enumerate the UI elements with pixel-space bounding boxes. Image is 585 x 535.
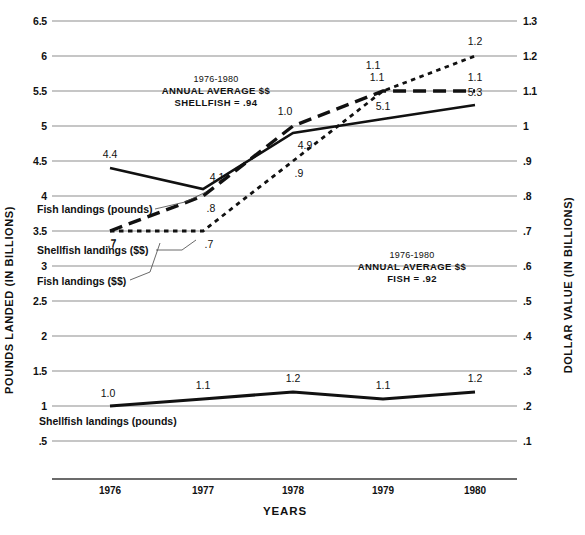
y-tick-right-label: .3 [523, 365, 532, 377]
annotation-fish-average: 1976-1980 ANNUAL AVERAGE $$ FISH = .92 [358, 250, 467, 284]
data-value-label: .7 [205, 238, 214, 250]
fisheries-landings-chart: 6.565.554.543.532.521.51.5 1.31.21.11.9.… [0, 0, 585, 535]
annotation-fish-line1: 1976-1980 [390, 250, 435, 260]
series-label-shellfish-pounds: Shellfish landings (pounds) [39, 415, 177, 427]
y-tick-left-label: 3 [41, 260, 47, 272]
data-value-label: .8 [207, 202, 216, 214]
y-tick-right-label: .4 [523, 330, 532, 342]
data-value-label: 1.0 [278, 105, 293, 117]
x-tick-label: 1980 [464, 485, 486, 496]
data-value-label: .9 [295, 167, 304, 179]
y-tick-left-label: 2 [41, 330, 47, 342]
annotation-shellfish-average: 1976-1980 ANNUAL AVERAGE $$ SHELLFISH = … [162, 74, 271, 108]
y-tick-left-label: 6.5 [33, 15, 47, 27]
y-axis-left-title: POUNDS LANDED (IN BILLIONS) [3, 206, 15, 394]
leader-shellfish-dollars [156, 240, 196, 250]
y-tick-right-label: 1.1 [523, 85, 537, 97]
series-line-shellfish-landings-pounds [110, 392, 475, 406]
x-axis-title: YEARS [263, 505, 307, 517]
leader-fish-pounds [155, 192, 206, 209]
y-axis-left-ticks: 6.565.554.543.532.521.51.5 [33, 15, 47, 447]
y-tick-right-label: .9 [523, 155, 532, 167]
data-value-label: 1.1 [468, 71, 483, 83]
data-value-label: 1.1 [196, 379, 211, 391]
y-tick-right-label: 1.3 [523, 15, 537, 27]
data-value-label: 1.1 [376, 379, 391, 391]
series-line-fish-landings-pounds [110, 105, 475, 189]
data-value-label: 1.1 [366, 59, 381, 71]
series-label-fish-dollars: Fish landings ($$) [37, 275, 126, 287]
x-tick-label: 1977 [192, 485, 214, 496]
data-value-label: 1.2 [468, 372, 483, 384]
series-line-fish-landings [110, 56, 475, 231]
y-tick-right-label: .1 [523, 435, 532, 447]
y-tick-left-label: 3.5 [33, 225, 47, 237]
annotation-fish-line2: ANNUAL AVERAGE $$ [358, 261, 467, 272]
annotation-shellfish-line2: ANNUAL AVERAGE $$ [162, 85, 271, 96]
series-label-fish-pounds: Fish landings (pounds) [37, 203, 153, 215]
x-tick-label: 1978 [282, 485, 304, 496]
y-axis-right-ticks: 1.31.21.11.9.8.7.6.5.4.3.2.1 [523, 15, 537, 447]
y-tick-left-label: 5 [41, 120, 47, 132]
y-axis-right-title: DOLLAR VALUE (IN BILLIONS) [562, 197, 574, 374]
data-value-label: 4.1 [210, 171, 225, 183]
y-tick-right-label: 1 [523, 120, 529, 132]
y-tick-right-label: .6 [523, 260, 532, 272]
data-value-label: 5.1 [376, 100, 391, 112]
data-value-label: 1.1 [370, 71, 385, 83]
y-tick-right-label: .5 [523, 295, 532, 307]
y-tick-left-label: 1.5 [33, 365, 47, 377]
y-tick-left-label: 6 [41, 50, 47, 62]
y-tick-left-label: 1 [41, 400, 47, 412]
y-tick-right-label: 1.2 [523, 50, 537, 62]
x-axis-ticks: 19761977197819791980 [99, 485, 486, 496]
annotation-fish-line3: FISH = .92 [387, 273, 437, 284]
annotation-shellfish-line3: SHELLFISH = .94 [175, 97, 258, 108]
data-value-label: 1.0 [101, 387, 116, 399]
y-tick-right-label: .2 [523, 400, 532, 412]
y-tick-left-label: 2.5 [33, 295, 47, 307]
x-tick-label: 1976 [99, 485, 121, 496]
data-value-label: 4.4 [103, 148, 118, 160]
y-tick-left-label: 5.5 [33, 85, 47, 97]
data-value-label: 1.2 [286, 372, 301, 384]
data-value-label: 1.2 [468, 35, 483, 47]
series-label-shellfish-dollars: Shellfish landings ($$) [37, 244, 148, 256]
data-value-label: 4.9 [298, 139, 313, 151]
data-value-label: 5.3 [468, 86, 483, 98]
annotation-shellfish-line1: 1976-1980 [194, 74, 239, 84]
y-tick-left-label: .5 [39, 435, 48, 447]
y-tick-left-label: 4 [41, 190, 47, 202]
x-tick-label: 1979 [372, 485, 394, 496]
y-tick-right-label: .8 [523, 190, 532, 202]
y-tick-right-label: .7 [523, 225, 532, 237]
y-tick-left-label: 4.5 [33, 155, 47, 167]
chart-container: 6.565.554.543.532.521.51.5 1.31.21.11.9.… [0, 0, 585, 535]
